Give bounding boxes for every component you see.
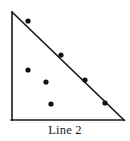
data-point <box>25 67 30 72</box>
data-point <box>58 52 63 57</box>
plot-canvas <box>0 0 130 141</box>
data-point <box>25 18 30 23</box>
trend-line <box>12 12 125 121</box>
figure-caption: Line 2 <box>0 122 130 138</box>
data-point <box>48 101 53 106</box>
scatter-plot-figure: Line 2 <box>0 0 130 141</box>
data-point <box>82 77 87 82</box>
data-point <box>43 79 48 84</box>
data-point <box>102 100 107 105</box>
